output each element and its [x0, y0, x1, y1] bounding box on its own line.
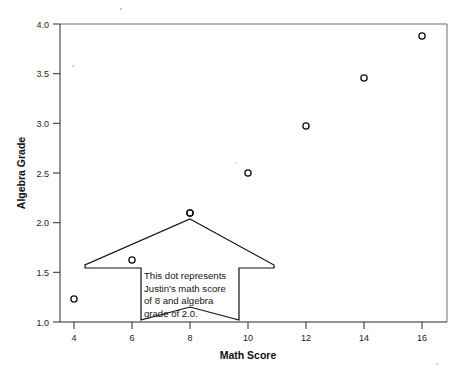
- data-point: [361, 75, 367, 81]
- y-axis-tick-labels: 1.0 1.5 2.0 2.5 3.0 3.5 4.0: [36, 20, 49, 328]
- y-tick-label: 4.0: [36, 20, 49, 30]
- y-tick-label: 1.0: [36, 318, 49, 328]
- data-point: [187, 210, 193, 216]
- justin-callout: This dot represents Justin's math score …: [85, 219, 274, 320]
- data-point: [419, 33, 425, 39]
- callout-line: of 8 and algebra: [144, 295, 214, 306]
- callout-line: grade of 2.0.: [144, 308, 198, 319]
- scan-speck: [436, 363, 438, 365]
- callout-line: Justin's math score: [144, 283, 226, 294]
- x-tick-label: 16: [417, 333, 427, 343]
- x-tick-label: 6: [129, 333, 134, 343]
- y-tick-label: 1.5: [36, 268, 49, 278]
- y-axis-ticks: [53, 24, 60, 322]
- x-tick-label: 4: [71, 333, 76, 343]
- plot-frame: [60, 24, 447, 322]
- data-point: [303, 123, 309, 129]
- data-point: [245, 170, 251, 176]
- scan-speck: [235, 162, 237, 164]
- y-tick-label: 3.0: [36, 119, 49, 129]
- y-tick-label: 2.5: [36, 169, 49, 179]
- data-point: [71, 296, 77, 302]
- x-tick-label: 14: [359, 333, 369, 343]
- x-tick-label: 10: [243, 333, 253, 343]
- x-tick-label: 12: [301, 333, 311, 343]
- y-axis-title: Algebra Grade: [15, 137, 27, 210]
- scan-speck: [72, 65, 74, 67]
- y-tick-label: 2.0: [36, 218, 49, 228]
- x-axis-tick-labels: 4 6 8 10 12 14 16: [71, 333, 427, 343]
- callout-line: This dot represents: [144, 270, 226, 281]
- scan-speck: [120, 8, 122, 10]
- x-tick-label: 8: [187, 333, 192, 343]
- x-axis-title: Math Score: [220, 349, 277, 361]
- scatter-plot-figure: 1.0 1.5 2.0 2.5 3.0 3.5 4.0 4 6 8 10 12 …: [0, 0, 473, 373]
- plot-canvas: 1.0 1.5 2.0 2.5 3.0 3.5 4.0 4 6 8 10 12 …: [0, 0, 473, 373]
- y-tick-label: 3.5: [36, 69, 49, 79]
- x-axis-ticks: [74, 322, 422, 329]
